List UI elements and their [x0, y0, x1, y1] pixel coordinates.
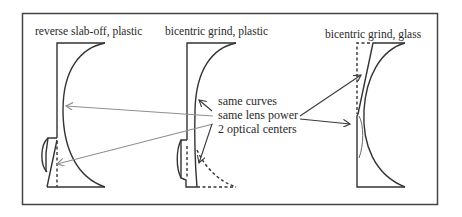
slab-off-wedge-edge: [47, 140, 57, 187]
panel-title-bicentric-glass: bicentric grind, glass: [325, 28, 422, 41]
removed-glass-dashed: [357, 43, 370, 114]
original-curve-dashed: [197, 150, 236, 187]
arrow-to-bicentric-plastic-upper: [199, 100, 212, 111]
arrow-to-bicentric-glass-upper: [300, 75, 361, 116]
arrow-to-reverse-slab-off-center: [66, 106, 213, 116]
arrow-to-reverse-slab-off-segment: [57, 124, 213, 164]
annotation-line-2: same lens power: [218, 108, 298, 122]
panel-title-reverse-slab-off: reverse slab-off, plastic: [35, 25, 142, 38]
lens-front-curve: [63, 43, 105, 187]
arrow-to-bicentric-glass-lower: [300, 119, 350, 124]
annotation-line-3: 2 optical centers: [218, 122, 297, 136]
arrow-to-bicentric-plastic-lower: [199, 124, 212, 163]
annotation-line-1: same curves: [218, 94, 277, 108]
lens-reverse-slab-off: [42, 43, 105, 187]
annotation: same curves same lens power 2 optical ce…: [218, 94, 298, 136]
segment-curve: [359, 116, 363, 158]
lens-diagram: reverse slab-off, plastic bicentric grin…: [0, 0, 462, 217]
panel-title-bicentric-plastic: bicentric grind, plastic: [165, 25, 268, 38]
lens-bicentric-glass: [357, 43, 405, 187]
lens-front-curve: [364, 43, 405, 187]
